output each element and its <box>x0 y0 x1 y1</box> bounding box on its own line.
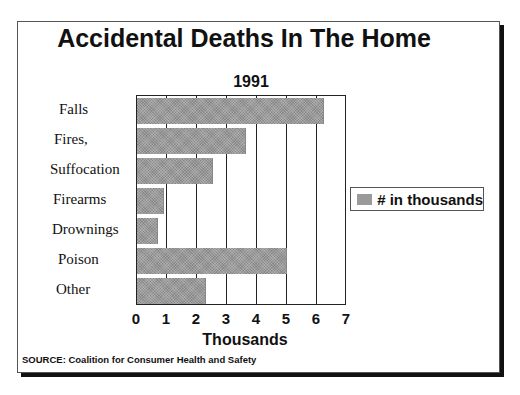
bar-other <box>137 278 206 304</box>
chart-title-text: Accidental Deaths In The Home <box>57 24 431 53</box>
category-label: Other <box>56 281 90 298</box>
chart-subtitle: 1991 <box>206 73 296 91</box>
x-tick-label: 1 <box>156 310 176 327</box>
category-label: Suffocation <box>50 161 120 178</box>
category-label: Fires, <box>54 131 88 148</box>
x-tick-label: 0 <box>126 310 146 327</box>
gridline <box>316 96 317 304</box>
x-tick-label: 5 <box>276 310 296 327</box>
category-label: Drownings <box>52 221 119 238</box>
x-axis-label: Thousands <box>190 331 300 349</box>
bar-fires <box>137 128 246 154</box>
x-tick-label: 2 <box>186 310 206 327</box>
bar-falls <box>137 98 324 124</box>
category-label: Firearms <box>53 191 106 208</box>
source-note: SOURCE: Coalition for Consumer Health an… <box>22 354 256 365</box>
bar-firearms <box>137 188 164 214</box>
category-label: Poison <box>58 251 99 268</box>
bar-drownings <box>137 218 158 244</box>
x-tick-label: 7 <box>336 310 356 327</box>
category-label: Falls <box>59 101 88 118</box>
bar-suffocation <box>137 158 213 184</box>
plot-area <box>136 95 346 305</box>
chart-title: Accidental Deaths In The Home <box>0 24 520 53</box>
legend-label: # in thousands <box>377 191 483 208</box>
legend: # in thousands <box>350 187 484 211</box>
bar-poison <box>137 248 287 274</box>
x-tick-label: 3 <box>216 310 236 327</box>
x-tick-label: 6 <box>306 310 326 327</box>
x-tick-label: 4 <box>246 310 266 327</box>
legend-swatch <box>357 194 372 205</box>
